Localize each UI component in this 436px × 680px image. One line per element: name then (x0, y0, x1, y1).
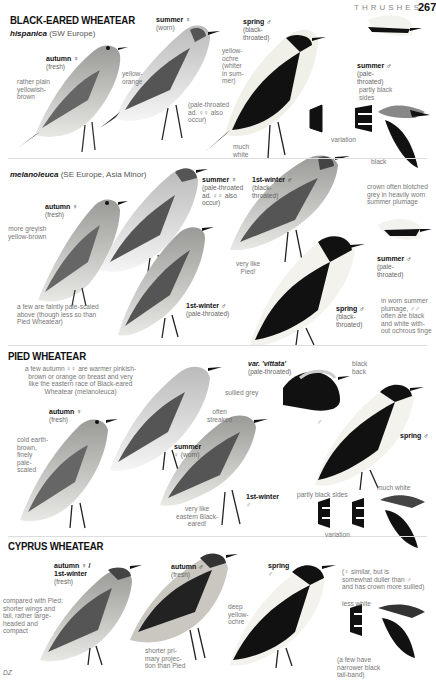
label-melanoleuca-spring-male: spring ♂(black- throated) (336, 305, 365, 328)
note-deep-yellow-ochre: deep yellow- ochre (228, 603, 249, 626)
note-compared-with-pied: compared with Pied: shorter wings and ta… (3, 597, 63, 635)
label-hispanica-spring-male: spring ♂(black- throated) (243, 18, 272, 41)
note-eastern-black-eared: very like eastern Black- eared! (176, 505, 218, 528)
species-title-pied: PIED WHEATEAR (8, 350, 86, 362)
tail-variation-pied (318, 498, 364, 528)
label-hispanica-summer-male: summer ♂(pale- throated) (357, 62, 391, 85)
bird-melanoleuca-summer-male-head (378, 219, 432, 240)
bird-melanoleuca-spring-male (250, 236, 365, 345)
note-less-white: less white (342, 600, 371, 608)
species-title-cyprus: CYPRUS WHEATEAR (8, 540, 103, 552)
label-pied-vittata: var. 'vittata'(pale-throated) (248, 360, 291, 376)
tail-cyprus (350, 604, 362, 636)
label-melanoleuca-summer-female: summer ♀(pale-throated ad. ♀♀ also occur… (202, 176, 243, 207)
note-black: black (371, 158, 386, 166)
note-female-similar: (♀ similar, but is somewhat duller than … (342, 568, 424, 591)
note-yellow-orange: yellow- orange (122, 70, 143, 85)
note-faintly-scaled: a few are faintly pale-scaled above (tho… (17, 303, 99, 326)
note-shorter-primary: shorter pri- mary projec- tion than Pied (145, 647, 185, 670)
note-warmer-autumn: a few autumn ♀♀ are warmer pinkish- brow… (25, 365, 136, 395)
divider (8, 158, 427, 159)
bird-pied-flying (380, 495, 425, 548)
note-worn-summer: in worn summer plumage, ♂♂ often are bla… (381, 297, 432, 335)
tail-variation-hispanica (310, 105, 372, 132)
note-very-like-pied: very like Pied! (236, 260, 260, 275)
note-pale-throated: (pale-throated ad. ♀♀ also occur) (188, 101, 229, 124)
bird-hispanica-summer-male-head (368, 15, 422, 36)
note-partly-black-sides: partly black sides (359, 86, 392, 101)
bird-cyprus-flying (378, 605, 425, 658)
note-much-white: much white (233, 143, 249, 158)
label-cyprus-autumn-male: autumn ♂(fresh) (171, 563, 203, 579)
note-yellow-ochre: yellow- ochre (whiter in sum- mer) (222, 47, 244, 85)
note-rather-plain: rather plain yellowish- brown (17, 78, 50, 101)
note-partly-black-sides-pied: partly black sides (297, 491, 348, 499)
note-male-symbol: ♂ (317, 418, 322, 426)
label-pied-autumn-female: autumn ♀(fresh) (49, 408, 81, 424)
note-much-white-pied: much white (377, 484, 410, 492)
label-cyprus-autumn-female: autumn ♀ / 1st-winter(fresh) (54, 562, 90, 586)
label-hispanica-summer-female: summer ♀(worn) (156, 16, 190, 32)
label-melanoleuca-1st-winter-pale: 1st-winter ♂(pale-throated) (186, 302, 229, 318)
label-melanoleuca-1st-winter-male: 1st-winter ♂(black- throated) (252, 176, 292, 199)
artist-signature: DZ (3, 669, 12, 677)
note-often-streaked: often streaked (207, 408, 232, 423)
label-pied-spring-male: spring ♂ (400, 432, 429, 440)
note-more-greyish: more greyish yellow-brown (8, 225, 46, 240)
race-melanoleuca: melanoleuca (SE Europe, Asia Minor) (10, 170, 147, 179)
bird-pied-vittata-head (283, 371, 350, 410)
divider (8, 345, 427, 346)
label-melanoleuca-autumn-female: autumn ♀(fresh) (45, 203, 77, 219)
note-crown-blotched: crown often blotched grey in heavily wor… (367, 183, 428, 206)
note-variation-pied: variation (325, 531, 350, 539)
label-melanoleuca-summer-male: summer ♂(pale- throated) (377, 255, 411, 278)
label-pied-summer-female: summer♀ (worn) (174, 443, 201, 459)
note-variation: variation (331, 136, 356, 144)
label-cyprus-spring-male: spring♂ (268, 562, 289, 578)
note-sullied-grey: sullied grey (225, 389, 258, 397)
label-pied-1st-winter: 1st-winter♂ (246, 493, 279, 509)
note-narrower-tail-band: (a few have narrower black tail-band) (337, 656, 380, 679)
note-black-back: black back (352, 360, 367, 375)
label-hispanica-autumn-female: autumn ♀(fresh) (46, 55, 78, 71)
note-cold-earth-brown: cold earth- brown, finely pale- scaled (17, 436, 48, 474)
divider (8, 536, 427, 537)
